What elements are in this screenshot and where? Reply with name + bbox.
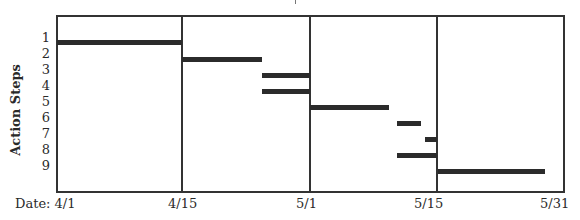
task-bar-7 — [425, 137, 437, 142]
scan-mark — [295, 0, 296, 4]
y-tick-6: 6 — [36, 111, 50, 124]
task-bar-9 — [438, 169, 545, 174]
y-tick-8: 8 — [36, 143, 50, 156]
task-bar-1 — [57, 40, 182, 45]
y-tick-7: 7 — [36, 127, 50, 140]
task-bar-2 — [182, 57, 262, 62]
task-bar-6 — [397, 121, 421, 126]
y-tick-3: 3 — [36, 63, 50, 76]
x-tick-4-1: Date: 4/1 — [15, 196, 76, 212]
x-tick-5-1: 5/1 — [296, 196, 317, 212]
y-tick-5: 5 — [36, 95, 50, 108]
x-tick-5-31: 5/31 — [540, 196, 569, 212]
gridline-5-1 — [309, 15, 311, 193]
task-bar-4 — [262, 89, 310, 94]
y-tick-4: 4 — [36, 79, 50, 92]
x-tick-4-15: 4/15 — [168, 196, 197, 212]
y-tick-1: 1 — [36, 31, 50, 44]
task-bar-5 — [310, 105, 389, 110]
y-tick-2: 2 — [36, 47, 50, 60]
y-tick-9: 9 — [36, 159, 50, 172]
gridline-5-15 — [436, 15, 438, 193]
y-axis-label: Action Steps — [8, 55, 24, 165]
x-tick-5-15: 5/15 — [414, 196, 443, 212]
task-bar-3 — [262, 73, 310, 78]
task-bar-8 — [397, 153, 437, 158]
